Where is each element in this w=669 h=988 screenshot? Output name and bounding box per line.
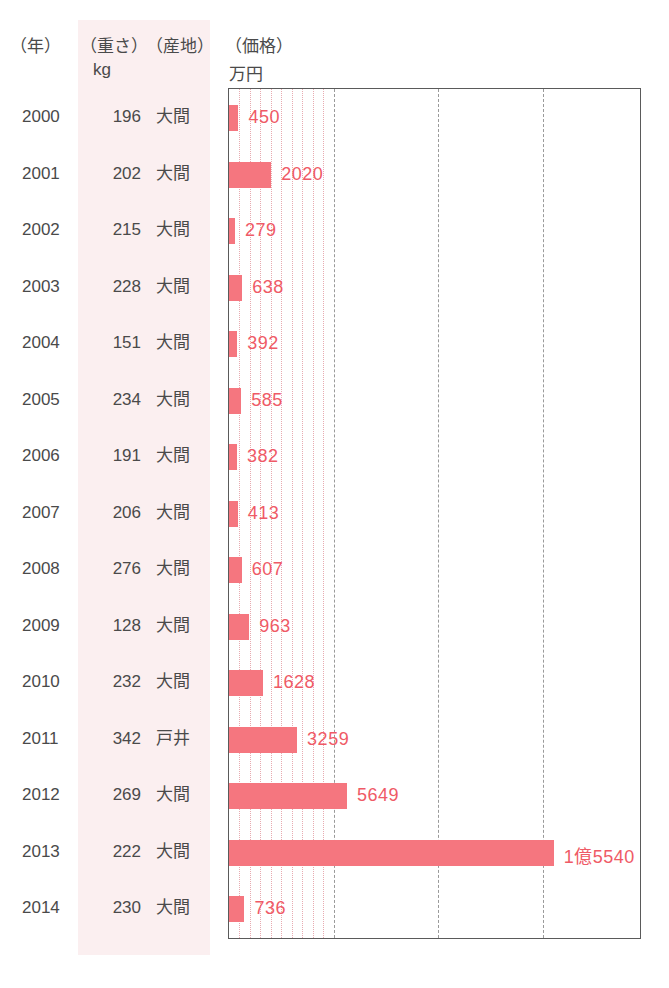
price-bar-label: 279 bbox=[245, 220, 277, 241]
cell-origin: 大間 bbox=[156, 106, 190, 128]
cell-origin: 大間 bbox=[156, 558, 190, 580]
cell-weight: 342 bbox=[99, 728, 141, 750]
cell-weight: 191 bbox=[99, 445, 141, 467]
price-bar bbox=[229, 105, 238, 131]
price-bar bbox=[229, 840, 554, 866]
cell-origin: 大間 bbox=[156, 784, 190, 806]
table-row: 2000196大間450 bbox=[0, 89, 669, 145]
cell-weight: 276 bbox=[99, 558, 141, 580]
price-bar-label: 1億5540 bbox=[564, 842, 635, 868]
cell-year: 2013 bbox=[22, 841, 60, 863]
price-bar-label: 2020 bbox=[281, 164, 323, 185]
header-year: （年） bbox=[10, 32, 61, 57]
cell-weight: 234 bbox=[99, 389, 141, 411]
table-row: 2014230大間736 bbox=[0, 880, 669, 936]
header-price: （価格） bbox=[225, 32, 293, 57]
table-row: 2008276大間607 bbox=[0, 541, 669, 597]
price-bar-label: 5649 bbox=[357, 785, 399, 806]
cell-weight: 222 bbox=[99, 841, 141, 863]
price-bar bbox=[229, 614, 249, 640]
price-bar-label: 638 bbox=[252, 277, 284, 298]
table-row: 2013222大間1億5540 bbox=[0, 824, 669, 880]
cell-year: 2008 bbox=[22, 558, 60, 580]
table-row: 2011342戸井3259 bbox=[0, 711, 669, 767]
price-bar bbox=[229, 783, 347, 809]
price-bar-label: 382 bbox=[247, 446, 279, 467]
cell-origin: 戸井 bbox=[156, 728, 190, 750]
price-bar bbox=[229, 501, 238, 527]
cell-origin: 大間 bbox=[156, 671, 190, 693]
cell-year: 2012 bbox=[22, 784, 60, 806]
cell-weight: 228 bbox=[99, 276, 141, 298]
table-row: 2010232大間1628 bbox=[0, 654, 669, 710]
cell-weight: 202 bbox=[99, 163, 141, 185]
price-bar bbox=[229, 275, 242, 301]
price-bar bbox=[229, 896, 244, 922]
cell-weight: 269 bbox=[99, 784, 141, 806]
table-row: 2007206大間413 bbox=[0, 485, 669, 541]
cell-weight: 128 bbox=[99, 615, 141, 637]
table-row: 2009128大間963 bbox=[0, 598, 669, 654]
cell-origin: 大間 bbox=[156, 615, 190, 637]
cell-year: 2003 bbox=[22, 276, 60, 298]
cell-year: 2004 bbox=[22, 332, 60, 354]
price-bar bbox=[229, 331, 237, 357]
table-row: 2001202大間2020 bbox=[0, 146, 669, 202]
table-header: （年） （重さ） （産地） （価格） kg 万円 bbox=[0, 24, 669, 86]
price-bar-label: 963 bbox=[259, 616, 291, 637]
table-row: 2005234大間585 bbox=[0, 372, 669, 428]
cell-origin: 大間 bbox=[156, 332, 190, 354]
price-bar bbox=[229, 218, 235, 244]
cell-year: 2014 bbox=[22, 897, 60, 919]
price-bar bbox=[229, 388, 241, 414]
cell-weight: 206 bbox=[99, 502, 141, 524]
cell-year: 2010 bbox=[22, 671, 60, 693]
price-bar-label: 1628 bbox=[273, 672, 315, 693]
price-bar-label: 607 bbox=[252, 559, 284, 580]
cell-weight: 215 bbox=[99, 219, 141, 241]
price-bar bbox=[229, 670, 263, 696]
cell-origin: 大間 bbox=[156, 897, 190, 919]
table-row: 2004151大間392 bbox=[0, 315, 669, 371]
header-origin: （産地） bbox=[146, 32, 214, 57]
price-bar bbox=[229, 557, 242, 583]
cell-year: 2009 bbox=[22, 615, 60, 637]
cell-origin: 大間 bbox=[156, 502, 190, 524]
cell-origin: 大間 bbox=[156, 276, 190, 298]
price-bar-label: 450 bbox=[248, 107, 280, 128]
header-weight: （重さ） bbox=[80, 32, 148, 57]
cell-origin: 大間 bbox=[156, 163, 190, 185]
price-bar-label: 392 bbox=[247, 333, 279, 354]
table-row: 2003228大間638 bbox=[0, 259, 669, 315]
cell-weight: 196 bbox=[99, 106, 141, 128]
table-row: 2006191大間382 bbox=[0, 428, 669, 484]
header-weight-unit: kg bbox=[93, 60, 111, 80]
cell-origin: 大間 bbox=[156, 841, 190, 863]
cell-year: 2000 bbox=[22, 106, 60, 128]
cell-year: 2006 bbox=[22, 445, 60, 467]
price-bar-label: 413 bbox=[248, 503, 280, 524]
table-row: 2002215大間279 bbox=[0, 202, 669, 258]
price-bar-label: 3259 bbox=[307, 729, 349, 750]
cell-origin: 大間 bbox=[156, 445, 190, 467]
cell-year: 2007 bbox=[22, 502, 60, 524]
table-row: 2012269大間5649 bbox=[0, 767, 669, 823]
cell-weight: 151 bbox=[99, 332, 141, 354]
cell-origin: 大間 bbox=[156, 219, 190, 241]
cell-weight: 230 bbox=[99, 897, 141, 919]
price-bar-label: 736 bbox=[254, 898, 286, 919]
cell-year: 2002 bbox=[22, 219, 60, 241]
price-bar bbox=[229, 162, 271, 188]
price-bar-label: 585 bbox=[251, 390, 283, 411]
header-price-unit: 万円 bbox=[229, 60, 263, 85]
cell-weight: 232 bbox=[99, 671, 141, 693]
price-bar bbox=[229, 444, 237, 470]
cell-year: 2001 bbox=[22, 163, 60, 185]
price-bar bbox=[229, 727, 297, 753]
cell-year: 2011 bbox=[22, 728, 59, 750]
cell-year: 2005 bbox=[22, 389, 60, 411]
cell-origin: 大間 bbox=[156, 389, 190, 411]
